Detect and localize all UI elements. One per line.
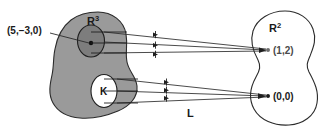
codomain-set-region — [251, 11, 318, 125]
mapping-arrow-lower-2 — [117, 91, 266, 96]
codomain-set-label-exponent: 2 — [277, 21, 281, 30]
mapping-label: L — [187, 107, 194, 119]
mapping-arrow-lower-1 — [117, 79, 266, 95]
diagram-canvas: R3 (5,−3,0) K R2 (1,2) (0,0) — [0, 0, 329, 134]
mapping-arrowhead-group-lower — [164, 79, 169, 102]
mapping-diagram-svg: R3 (5,−3,0) K R2 (1,2) (0,0) — [0, 0, 329, 134]
image-point-dot-1 — [266, 48, 270, 52]
codomain-set-label-base: R — [269, 22, 277, 34]
kernel-label: K — [100, 86, 108, 97]
image-point-label-2: (0,0) — [273, 91, 294, 102]
mapping-arrow-bundle-upper — [104, 32, 266, 53]
image-point-dot-2 — [266, 94, 270, 98]
domain-set-label-exponent: 3 — [95, 14, 99, 23]
mapping-arrow-upper-2 — [104, 42, 266, 50]
mapping-arrow-bundle-lower — [117, 79, 266, 103]
preimage-point-label: (5,−3,0) — [7, 25, 42, 36]
mapping-arrow-upper-1 — [104, 32, 266, 49]
mapping-arrow-lower-3 — [117, 97, 266, 103]
image-point-label-1: (1,2) — [273, 45, 294, 56]
mapping-arrow-upper-3 — [104, 51, 266, 53]
